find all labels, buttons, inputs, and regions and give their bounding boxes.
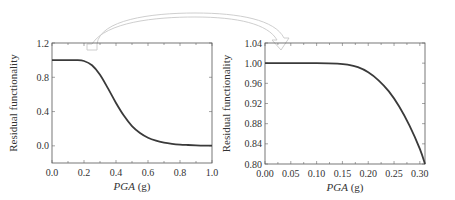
figure: 0.00.20.40.60.81.00.00.40.81.2PGA (g)Res… xyxy=(0,0,455,200)
x-axis-label-variable: PGA xyxy=(113,180,136,192)
x-axis-label: PGA (g) xyxy=(326,181,364,194)
y-axis-label: Residual functionality xyxy=(7,54,19,152)
x-tick-label: 0.30 xyxy=(411,168,429,179)
y-tick-label: 1.2 xyxy=(37,38,50,49)
x-tick-label: 0.0 xyxy=(46,167,59,178)
y-axis-label: Residual functionality xyxy=(220,54,232,152)
y-tick-label: 0.0 xyxy=(37,140,50,151)
y-tick-label: 0.84 xyxy=(245,138,263,149)
x-axis-label-unit: (g) xyxy=(348,181,364,194)
x-tick-label: 0.2 xyxy=(78,167,91,178)
series-line xyxy=(265,63,425,164)
x-tick-label: 0.05 xyxy=(282,168,300,179)
series-line xyxy=(52,60,212,146)
x-axis-label: PGA (g) xyxy=(113,180,151,193)
y-tick-label: 1.04 xyxy=(245,38,263,49)
left-chart: 0.00.20.40.60.81.00.00.40.81.2PGA (g)Res… xyxy=(7,38,218,194)
x-tick-label: 0.10 xyxy=(308,168,326,179)
y-tick-label: 0.96 xyxy=(245,78,263,89)
x-axis-label-unit: (g) xyxy=(135,180,151,193)
x-tick-label: 0.4 xyxy=(110,167,123,178)
right-chart: 0.000.050.100.150.200.250.300.800.840.88… xyxy=(220,38,429,195)
x-tick-label: 0.20 xyxy=(359,168,377,179)
x-tick-label: 0.15 xyxy=(334,168,352,179)
plot-frame xyxy=(265,43,425,164)
x-axis-label-variable: PGA xyxy=(326,181,349,193)
x-tick-label: 0.6 xyxy=(142,167,155,178)
y-tick-label: 1.00 xyxy=(245,58,263,69)
y-tick-label: 0.80 xyxy=(245,159,263,170)
x-tick-label: 0.00 xyxy=(256,168,274,179)
y-tick-label: 0.88 xyxy=(245,118,263,129)
y-tick-label: 0.92 xyxy=(245,98,263,109)
x-tick-label: 1.0 xyxy=(206,167,219,178)
x-tick-label: 0.25 xyxy=(385,168,403,179)
y-tick-label: 0.8 xyxy=(37,72,50,83)
y-tick-label: 0.4 xyxy=(37,106,50,117)
x-tick-label: 0.8 xyxy=(174,167,187,178)
